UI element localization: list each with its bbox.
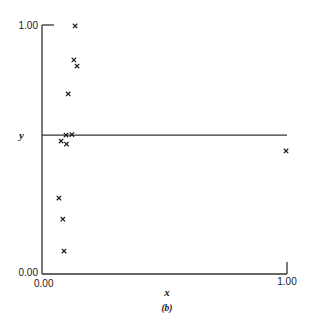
x-marker-icon xyxy=(75,64,79,68)
scatter-chart: 1.00 0.00 0.00 1.00 y x (b) xyxy=(0,0,315,329)
y-axis-label: y xyxy=(17,129,24,141)
x-marker-icon xyxy=(66,92,70,96)
x-marker-icon xyxy=(64,142,68,146)
x-marker-icon xyxy=(72,58,76,62)
x-marker-icon xyxy=(59,139,63,143)
x-axis-label: x xyxy=(163,286,170,298)
x-marker-icon xyxy=(57,196,61,200)
data-points xyxy=(57,24,289,253)
x-marker-icon xyxy=(73,24,77,28)
x-tick-left-label: 0.00 xyxy=(34,278,54,289)
x-marker-icon xyxy=(284,149,288,153)
x-tick-right-label: 1.00 xyxy=(277,276,297,287)
x-marker-icon xyxy=(61,217,65,221)
y-tick-top-label: 1.00 xyxy=(19,20,39,31)
x-marker-icon xyxy=(62,249,66,253)
figure-caption: (b) xyxy=(161,303,172,314)
y-tick-bottom-label: 0.00 xyxy=(19,267,39,278)
